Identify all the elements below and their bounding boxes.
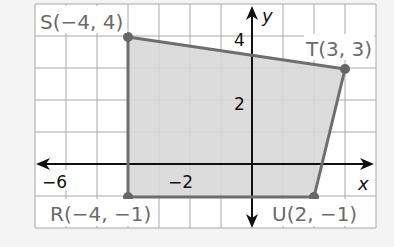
vertex-s-dot (123, 32, 133, 42)
vertex-u-label: U(2, −1) (272, 202, 357, 226)
vertex-t-label: T(3, 3) (305, 37, 372, 61)
vertex-s-label: S(−4, 4) (40, 10, 123, 34)
x-tick-label-neg2: −2 (168, 172, 193, 192)
coordinate-plane: S(−4, 4) T(3, 3) U(2, −1) R(−4, −1) −6 −… (0, 0, 394, 247)
vertex-r-label: R(−4, −1) (50, 202, 151, 226)
vertex-t-dot (340, 64, 350, 74)
y-tick-label-2: 2 (234, 94, 245, 114)
x-axis-label: x (357, 173, 369, 194)
y-tick-label-4: 4 (234, 30, 245, 50)
y-axis-label: y (261, 5, 273, 26)
x-tick-label-neg6: −6 (42, 172, 67, 192)
